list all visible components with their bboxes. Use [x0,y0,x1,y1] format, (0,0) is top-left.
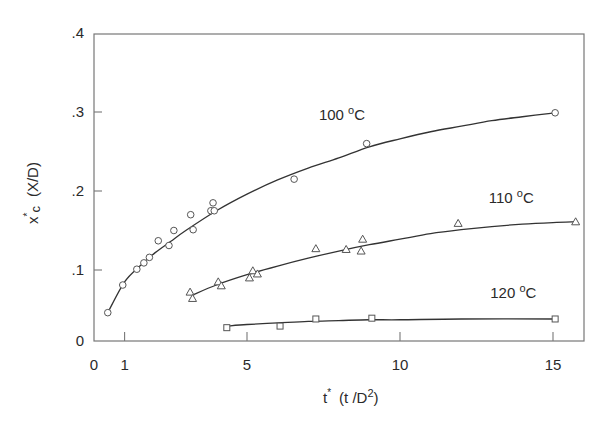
circle-marker [187,211,194,218]
x-tick-label: 5 [243,356,251,373]
square-marker [224,325,230,331]
x-tick-label: 10 [392,356,409,373]
series-label: 110 oC [489,187,534,206]
square-marker [313,316,319,322]
circle-marker [291,176,298,183]
series-labels: 100 oC110 oC120 oC [319,104,537,301]
x-axis-label: t*(t /D2) [323,387,379,406]
y-tick-label: .3 [71,103,84,120]
svg-text:t*(t /D2): t*(t /D2) [323,387,379,406]
triangle-marker [454,219,462,226]
triangle-marker [357,247,365,254]
circle-marker [166,242,173,249]
circle-marker [119,282,126,289]
chart: 0151015 0.1.2.3.4 100 oC110 oC120 oC t*(… [0,0,612,432]
circle-marker [171,227,178,234]
y-label-paren: (X/D) [24,162,41,197]
y-tick-label: .2 [71,182,84,199]
x-label-close: ) [374,389,379,406]
y-tick-label: .1 [71,261,84,278]
series-label: 120 oC [490,282,536,301]
plot-area: 0151015 0.1.2.3.4 100 oC110 oC120 oC t*(… [0,0,612,432]
circle-marker [211,207,218,214]
x-tick-label: 0 [90,356,98,373]
circle-marker [134,266,141,273]
circle-marker [104,309,111,316]
circle-marker [155,237,162,244]
circle-marker [552,109,559,116]
x-label-sup: * [327,387,331,398]
circle-marker [141,260,148,267]
y-tick-label: .4 [71,24,84,41]
square-marker [552,316,558,322]
fit-curve-circle [108,113,555,313]
y-tick-label: 0 [76,332,84,349]
x-axis-ticks: 0151015 [90,332,562,373]
triangle-marker [359,235,367,242]
fit-curve-square [227,319,555,326]
circle-marker [210,200,217,207]
x-label-paren: (t /D [339,389,367,406]
x-tick-label: 1 [120,356,128,373]
circle-marker [146,254,153,261]
circle-marker [190,226,197,233]
y-label-sub: c [28,206,43,213]
triangle-marker [312,245,320,252]
square-marker [277,323,283,329]
x-tick-label: 15 [545,356,562,373]
svg-text:x*c(X/D): x*c(X/D) [22,162,43,224]
y-axis-ticks: 0.1.2.3.4 [71,24,102,349]
y-axis-label: x*c(X/D) [22,162,43,224]
series-label: 100 oC [319,104,365,123]
square-marker [369,315,375,321]
circle-marker [363,140,370,147]
